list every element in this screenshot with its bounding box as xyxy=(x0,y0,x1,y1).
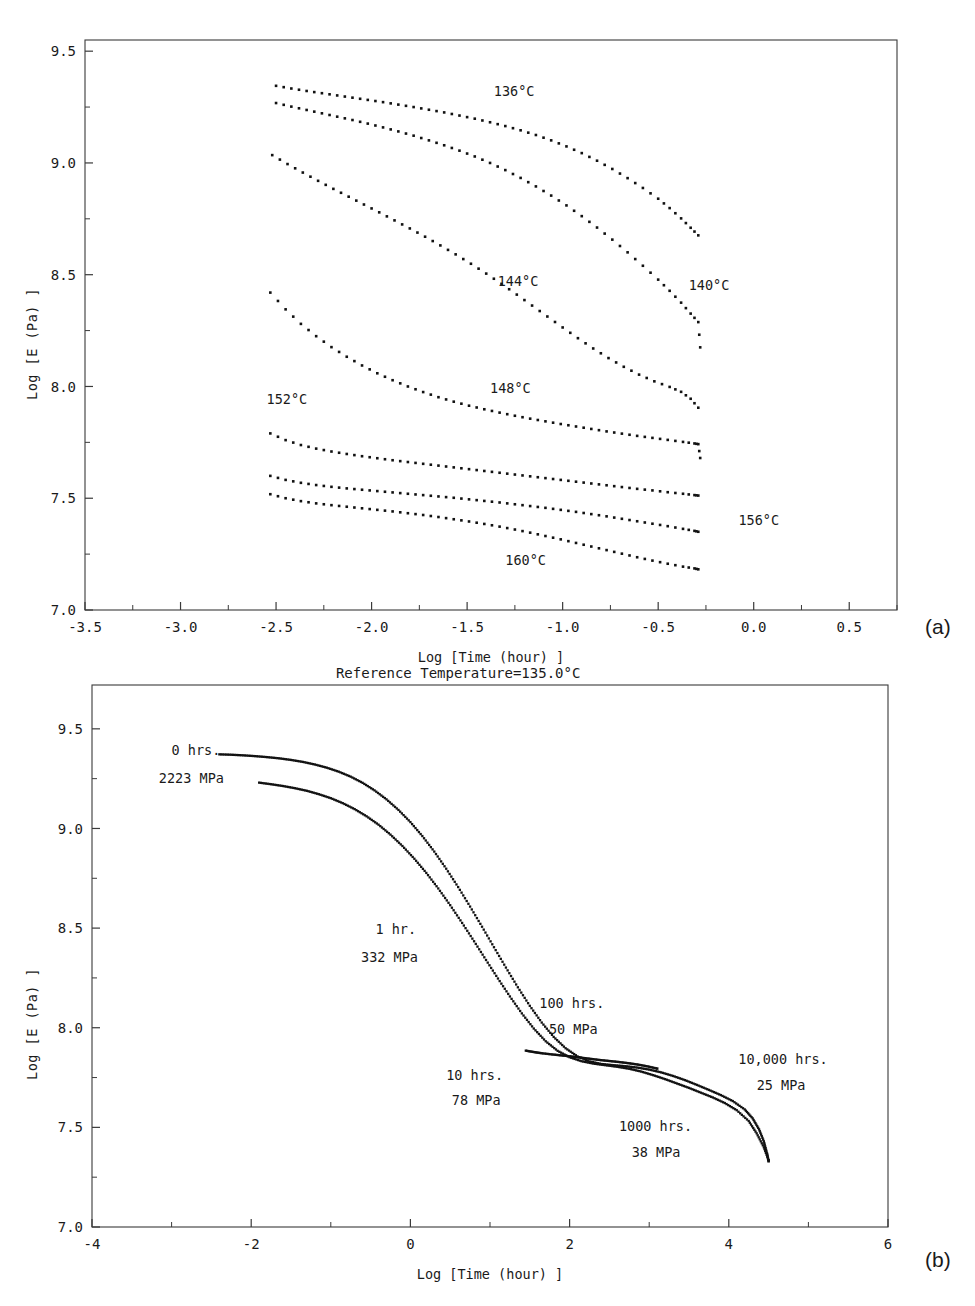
data-annotation: 152°C xyxy=(267,391,308,407)
data-annotation: 1 hr. xyxy=(375,921,416,937)
y-tick-label: 9.0 xyxy=(58,821,83,837)
data-annotation: 38 MPa xyxy=(632,1144,681,1160)
y-tick-label: 7.5 xyxy=(58,1119,83,1135)
data-annotation: 10 hrs. xyxy=(446,1067,503,1083)
panel-b-caption-label: (b) xyxy=(925,1248,951,1272)
y-tick-label: 8.5 xyxy=(58,920,83,936)
y-tick-label: 8.5 xyxy=(51,267,76,283)
x-tick-label: 6 xyxy=(884,1236,892,1252)
y-tick-label: 9.0 xyxy=(51,155,76,171)
x-tick-label: -4 xyxy=(84,1236,101,1252)
data-annotation: 332 MPa xyxy=(361,949,418,965)
x-axis-label: Log [Time (hour) ] xyxy=(417,1266,563,1282)
x-tick-label: 0.0 xyxy=(741,619,766,635)
data-annotation: 10,000 hrs. xyxy=(738,1051,827,1067)
panel-a: Log [E (Pa) ] -3.5-3.0-2.5-2.0-1.5-1.0-0… xyxy=(0,0,975,660)
panel-a-caption-label: (a) xyxy=(925,615,951,639)
data-annotation: 1000 hrs. xyxy=(619,1118,692,1134)
data-annotation: 50 MPa xyxy=(549,1021,598,1037)
panel-b-y-axis-label: Log [E (Pa) ] xyxy=(24,968,40,1080)
data-annotation: 144°C xyxy=(498,273,539,289)
data-annotation: 136°C xyxy=(494,83,535,99)
y-tick-label: 9.5 xyxy=(51,43,76,59)
data-annotation: 78 MPa xyxy=(452,1092,501,1108)
x-tick-label: -3.0 xyxy=(164,619,198,635)
panel-b: Log [E (Pa) ] -4-202467.07.58.08.59.09.5… xyxy=(0,660,975,1306)
y-tick-label: 7.5 xyxy=(51,490,76,506)
x-tick-label: -2 xyxy=(243,1236,260,1252)
y-tick-label: 7.0 xyxy=(58,1219,83,1235)
y-tick-label: 8.0 xyxy=(58,1020,83,1036)
chart-title: Reference Temperature=135.0°C xyxy=(336,665,580,681)
data-annotation: 148°C xyxy=(490,380,531,396)
y-tick-label: 8.0 xyxy=(51,379,76,395)
x-tick-label: -2.5 xyxy=(259,619,293,635)
data-annotation: 2223 MPa xyxy=(159,770,224,786)
x-tick-label: -0.5 xyxy=(641,619,675,635)
x-tick-label: 2 xyxy=(565,1236,573,1252)
x-tick-label: -1.0 xyxy=(546,619,580,635)
data-annotation: 156°C xyxy=(738,512,779,528)
panel-b-plot: -4-202467.07.58.08.59.09.5Log [Time (hou… xyxy=(0,660,975,1306)
data-annotation: 160°C xyxy=(505,552,546,568)
x-tick-label: -1.5 xyxy=(450,619,484,635)
x-tick-label: 4 xyxy=(725,1236,733,1252)
x-tick-label: -2.0 xyxy=(355,619,389,635)
x-tick-label: 0.5 xyxy=(837,619,862,635)
data-annotation: 25 MPa xyxy=(757,1077,806,1093)
panel-a-plot: -3.5-3.0-2.5-2.0-1.5-1.0-0.50.00.57.07.5… xyxy=(0,0,975,660)
data-annotation: 0 hrs. xyxy=(172,742,221,758)
y-tick-label: 9.5 xyxy=(58,721,83,737)
y-tick-label: 7.0 xyxy=(51,602,76,618)
data-annotation: 140°C xyxy=(689,277,730,293)
x-tick-label: -3.5 xyxy=(68,619,102,635)
panel-a-y-axis-label: Log [E (Pa) ] xyxy=(24,288,40,400)
x-tick-label: 0 xyxy=(406,1236,414,1252)
data-annotation: 100 hrs. xyxy=(539,995,604,1011)
